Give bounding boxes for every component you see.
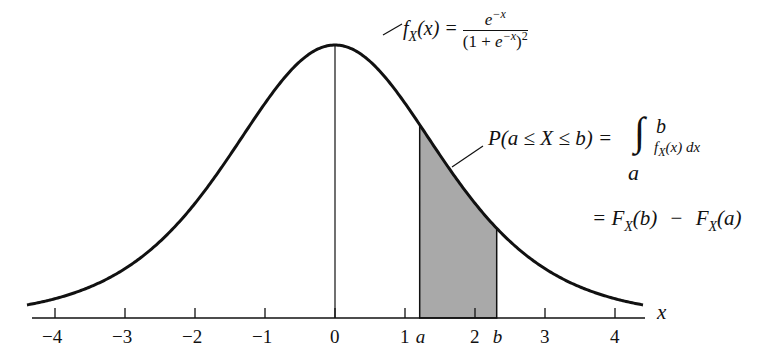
marker-label-a: a	[416, 327, 426, 346]
probability-formula: P(a ≤ X ≤ b) =	[488, 128, 612, 149]
density-f: f	[403, 17, 409, 39]
tick-label: −2	[182, 327, 202, 346]
tick-label: 2	[470, 327, 480, 346]
cdf-formula: = FX(b) − FX(a)	[592, 208, 742, 229]
cdf-arg-1: (b)	[633, 206, 658, 230]
cdf-minus: −	[671, 206, 683, 230]
cdf-subscript-1: X	[624, 219, 633, 234]
shaded-probability-area	[420, 125, 497, 318]
tick-label: 0	[330, 327, 340, 346]
integrand-subscript: X	[658, 145, 665, 159]
numerator-exponent: −x	[492, 7, 505, 21]
cdf-prefix: = F	[592, 206, 624, 230]
cdf-f-2: F	[696, 206, 709, 230]
density-subscript: X	[409, 29, 418, 44]
probability-label-leader	[452, 146, 483, 167]
denominator-open: (1 +	[463, 32, 495, 51]
probability-lhs: P(a ≤ X ≤ b) =	[488, 126, 612, 150]
tick-label: −3	[112, 327, 132, 346]
cdf-arg-2: (a)	[717, 206, 742, 230]
tick-label: 1	[400, 327, 410, 346]
density-figure	[0, 0, 763, 363]
integral-sign: ∫	[634, 109, 645, 154]
denominator-power: 2	[522, 29, 528, 43]
density-label-leader	[383, 24, 402, 35]
tick-label: 4	[610, 327, 620, 346]
x-axis-ticks	[55, 308, 615, 318]
cdf-subscript-2: X	[708, 219, 717, 234]
integral-lower-limit: a	[628, 162, 639, 184]
denominator-base: e	[495, 32, 503, 51]
integral-upper-limit: b	[656, 116, 666, 136]
tick-label: −4	[42, 327, 62, 346]
density-formula: fX(x) = e−x (1 + e−x)2	[403, 11, 528, 50]
density-fraction: e−x (1 + e−x)2	[463, 11, 528, 50]
x-axis-label: x	[657, 302, 666, 323]
integrand-rest: (x) dx	[666, 139, 701, 155]
denominator-exponent: −x	[503, 29, 516, 43]
marker-label-b: b	[493, 327, 503, 346]
density-arg: (x) =	[417, 17, 458, 39]
tick-label: −1	[252, 327, 272, 346]
tick-label: 3	[540, 327, 550, 346]
denominator-close: )	[516, 32, 522, 51]
integrand: fX(x) dx	[654, 140, 700, 155]
